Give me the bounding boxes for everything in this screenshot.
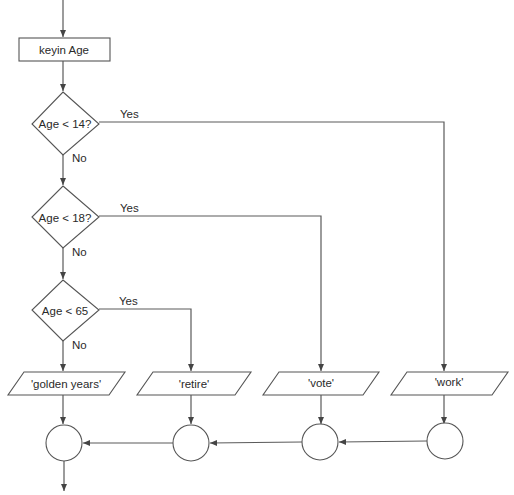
connector-1 [46, 425, 82, 461]
decision-1-label: Age < 14? [39, 118, 92, 130]
output-4-label: 'work' [435, 376, 464, 388]
decision-3-no-label: No [72, 339, 87, 351]
decision-2-yes-label: Yes [120, 202, 139, 214]
yes-arrow-65-to-retire [99, 309, 191, 371]
output-2-label: 'retire' [179, 378, 210, 390]
decision-3-label: Age < 65 [42, 305, 88, 317]
decision-1-yes-label: Yes [120, 108, 139, 120]
process-label: keyin Age [39, 44, 89, 56]
merge-arrow-4-to-3 [339, 441, 427, 442]
connector-2 [173, 425, 209, 461]
yes-arrow-14-to-work [99, 122, 444, 371]
connector-4 [427, 423, 463, 459]
yes-arrow-18-to-vote [99, 216, 321, 371]
output-1-label: 'golden years' [31, 378, 101, 390]
decision-2-label: Age < 18? [39, 212, 92, 224]
decision-3-yes-label: Yes [119, 295, 138, 307]
merge-arrow-3-to-2 [210, 442, 302, 443]
output-3-label: 'vote' [308, 377, 334, 389]
decision-1-no-label: No [72, 152, 87, 164]
connector-3 [302, 424, 338, 460]
decision-2-no-label: No [72, 246, 87, 258]
